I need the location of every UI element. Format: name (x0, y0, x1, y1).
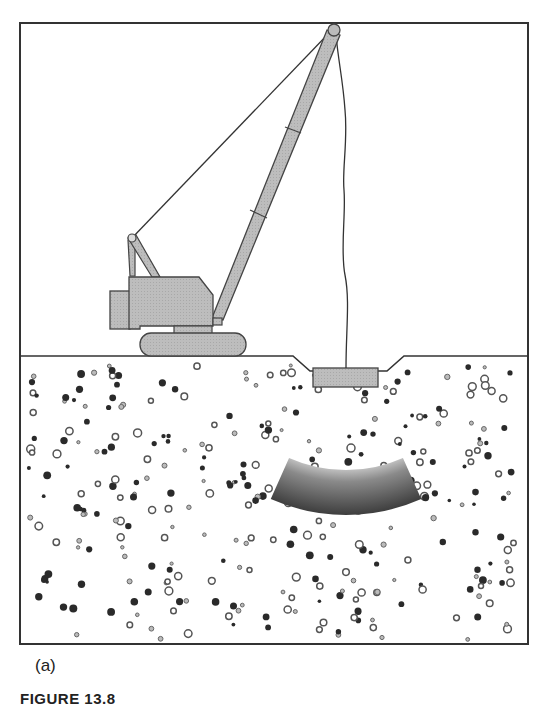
soil-particle (35, 593, 42, 600)
soil-particle (424, 481, 431, 488)
soil-particle (265, 485, 272, 492)
soil-particle (484, 441, 488, 445)
soil-particle (293, 409, 299, 415)
soil-particle (112, 476, 119, 483)
soil-particle (496, 471, 502, 477)
boom-foot (213, 318, 222, 325)
soil-particle (430, 459, 436, 465)
soil-particle (227, 482, 233, 488)
soil-particle (417, 459, 423, 465)
soil-particle (226, 413, 232, 419)
soil-particle (505, 622, 509, 626)
soil-particle (474, 567, 480, 573)
soil-particle (369, 551, 373, 555)
soil-particle (290, 526, 298, 534)
soil-particle (320, 619, 327, 626)
soil-particle (389, 526, 393, 530)
soil-particle (234, 480, 238, 484)
soil-particle (245, 377, 249, 381)
soil-particle (125, 523, 131, 529)
soil-particle (112, 434, 118, 440)
soil-particle (421, 449, 426, 454)
soil-particle (184, 630, 192, 638)
soil-particle (32, 436, 37, 441)
soil-particle (162, 535, 168, 541)
soil-particle (161, 434, 165, 438)
soil-particle (134, 480, 139, 485)
crawler-track (140, 333, 246, 356)
soil-particle (478, 441, 483, 446)
soil-particle (34, 393, 38, 397)
soil-particle (479, 584, 484, 589)
soil-particle (244, 371, 248, 375)
soil-particle (474, 614, 481, 621)
soil-particle (60, 437, 67, 444)
soil-particle (145, 476, 150, 481)
soil-particle (31, 374, 36, 379)
soil-particle (469, 421, 473, 425)
soil-particle (236, 608, 241, 613)
soil-particle (95, 450, 99, 454)
soil-particle (123, 554, 128, 559)
soil-particle (417, 414, 423, 420)
soil-particle (152, 441, 157, 446)
soil-particle (411, 450, 416, 455)
soil-particle (131, 598, 139, 606)
soil-particle (118, 495, 123, 500)
soil-particle (472, 489, 479, 496)
soil-particle (27, 466, 31, 470)
figure-caption: FIGURE 13.8 (20, 690, 116, 704)
soil-particle (66, 427, 73, 434)
soil-particle (431, 515, 436, 520)
soil-particle (355, 609, 361, 615)
drop-weight (313, 368, 378, 387)
soil-particle (507, 567, 513, 573)
soil-particle (410, 414, 414, 418)
soil-particle (327, 554, 333, 560)
soil-particle (62, 394, 69, 401)
soil-particle (507, 370, 512, 375)
soil-particle (507, 579, 514, 586)
soil-particle (78, 491, 84, 497)
soil-particle (166, 434, 170, 438)
boom-tip-sheave (328, 24, 340, 36)
soil-particle (165, 579, 170, 584)
soil-particle (200, 442, 205, 447)
soil-particle (109, 394, 116, 401)
figure-frame (20, 23, 528, 644)
soil-particle (436, 406, 442, 412)
soil-particle (114, 382, 120, 388)
soil-particle (75, 633, 79, 637)
soil-particle (371, 618, 375, 622)
soil-particle (399, 601, 405, 607)
soil-particle (316, 518, 321, 523)
soil-particle (343, 569, 350, 576)
soil-particle (83, 404, 87, 408)
soil-particle (232, 431, 237, 436)
soil-particle (448, 499, 452, 503)
soil-particle (206, 490, 213, 497)
soil-particle (241, 462, 247, 468)
soil-particle (304, 531, 312, 539)
soil-particle (440, 539, 446, 545)
soil-particle (266, 421, 271, 426)
soil-particle (478, 437, 482, 441)
soil-particle (282, 407, 287, 412)
soil-particle (497, 533, 504, 540)
soil-particle (95, 481, 100, 486)
counterweight (110, 291, 130, 329)
gantry-pin (128, 234, 136, 242)
soil-particle (280, 429, 283, 432)
soil-particle (500, 395, 507, 402)
soil-particle (312, 576, 319, 583)
soil-particle (106, 405, 111, 410)
soil-particle (405, 557, 411, 563)
soil-particle (501, 425, 507, 431)
soil-particle (208, 577, 215, 584)
soil-particle (317, 583, 323, 589)
soil-particle (45, 580, 49, 584)
soil-particle (127, 579, 132, 584)
soil-particle (240, 603, 244, 607)
soil-particle (336, 629, 341, 634)
soil-particle (384, 399, 389, 404)
